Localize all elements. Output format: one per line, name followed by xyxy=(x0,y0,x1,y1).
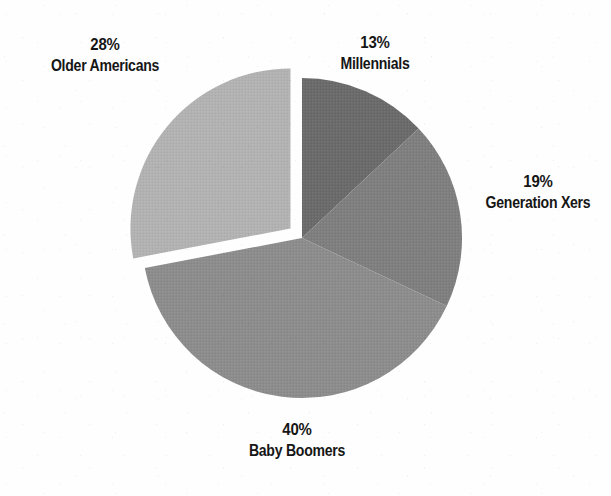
pie-label-older-americans-value: 28% xyxy=(51,35,159,56)
pie-chart-page: 13% Millennials 19% Generation Xers 40% … xyxy=(0,0,611,496)
pie-label-older-americans: 28% Older Americans xyxy=(44,35,167,75)
pie-label-millennials-value: 13% xyxy=(340,33,409,54)
pie-label-baby-boomers: 40% Baby Boomers xyxy=(242,420,351,460)
pie-label-baby-boomers-name: Baby Boomers xyxy=(249,441,345,461)
pie-label-generation-xers-value: 19% xyxy=(486,172,591,193)
pie-label-millennials: 13% Millennials xyxy=(336,33,415,73)
pie-label-generation-xers-name: Generation Xers xyxy=(486,193,591,213)
pie-chart: 13% Millennials 19% Generation Xers 40% … xyxy=(0,0,611,496)
pie-label-millennials-name: Millennials xyxy=(340,54,409,74)
pie-label-generation-xers: 19% Generation Xers xyxy=(478,172,597,212)
pie-slices-texture-overlay xyxy=(130,68,462,398)
pie-label-older-americans-name: Older Americans xyxy=(51,56,159,76)
pie-label-baby-boomers-value: 40% xyxy=(249,420,345,441)
